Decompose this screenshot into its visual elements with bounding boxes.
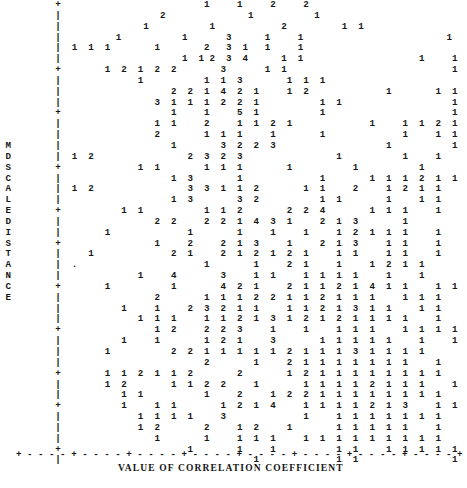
plot-row: | 1 1 2 1 1 bbox=[0, 22, 456, 33]
plot-row: + 1 1 2 1 1 2 2 1 2 1 1 1 1 1 1 1 1 bbox=[0, 369, 456, 380]
plot-row: E | 2 1 1 1 2 2 1 1 2 1 1 1 1 1 1 bbox=[0, 293, 456, 304]
plot-row: S + 1 1 1 1 1 1 1 1 bbox=[0, 163, 456, 174]
plot-row: | 2 2 1 4 2 1 1 2 1 1 1 bbox=[0, 87, 456, 98]
plot-row: | 1 1 1 1 1 1 1 1 1 1 1 1 1 1 bbox=[0, 434, 456, 445]
x-axis-line: + - - - - + - - - - + - - - - + - - - - … bbox=[16, 449, 463, 460]
x-axis-label: VALUE OF CORRELATION COEFFICIENT bbox=[118, 463, 344, 473]
plot-row: I | 1 1 1 1 1 1 2 1 1 1 1 bbox=[0, 228, 456, 239]
